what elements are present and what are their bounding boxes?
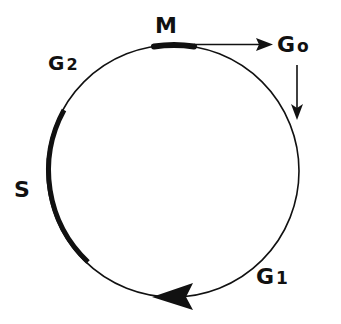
label-m: M bbox=[155, 13, 177, 38]
m-phase-segment bbox=[154, 45, 194, 47]
label-g2: G2 bbox=[48, 51, 78, 75]
label-s: S bbox=[14, 177, 30, 202]
cell-cycle-diagram: M Go G2 S G1 bbox=[0, 0, 341, 324]
label-g0: Go bbox=[277, 32, 309, 57]
label-g1: G1 bbox=[256, 264, 288, 289]
s-phase-segment bbox=[49, 110, 88, 262]
